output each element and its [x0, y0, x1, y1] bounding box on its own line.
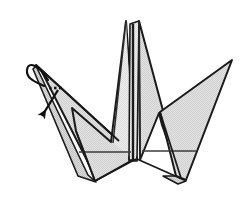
right-sail-crease [139, 21, 140, 160]
origami-crane-illustration [0, 0, 246, 216]
origami-figure: Origami paper crane fold diagram curved … [0, 0, 246, 216]
